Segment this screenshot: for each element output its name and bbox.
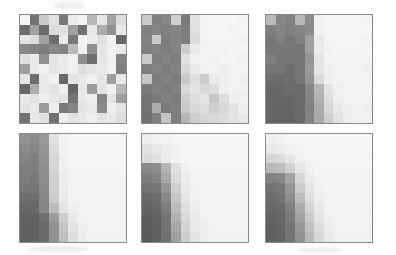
heatmap-cell (30, 84, 40, 94)
heatmap-panel-1[interactable] (19, 14, 127, 124)
heatmap-cell (285, 154, 295, 164)
heatmap-cell (343, 84, 353, 94)
heatmap-cell (324, 134, 334, 144)
heatmap-cell (324, 213, 334, 223)
heatmap-cell (68, 173, 78, 183)
heatmap-cell (171, 25, 181, 35)
heatmap-cell (68, 94, 78, 104)
heatmap-cell (39, 103, 49, 113)
heatmap-cell (276, 44, 286, 54)
heatmap-cell (107, 203, 117, 213)
heatmap-cell (362, 35, 372, 45)
heatmap-cell (209, 84, 219, 94)
heatmap-cell (39, 193, 49, 203)
heatmap-cell (30, 54, 40, 64)
heatmap-cell (324, 154, 334, 164)
heatmap-cell (116, 222, 126, 232)
heatmap-cell (353, 163, 363, 173)
heatmap-cell (200, 183, 210, 193)
heatmap-cell (68, 74, 78, 84)
heatmap-panel-2[interactable] (141, 14, 249, 124)
heatmap-cell (362, 163, 372, 173)
heatmap-cell (324, 25, 334, 35)
heatmap-cell (343, 25, 353, 35)
heatmap-cell (161, 103, 171, 113)
heatmap-cell (295, 232, 305, 242)
figure-root (0, 0, 396, 255)
heatmap-cell (181, 103, 191, 113)
heatmap-cell (266, 183, 276, 193)
heatmap-cell (238, 203, 248, 213)
heatmap-cell (353, 222, 363, 232)
heatmap-cell (343, 144, 353, 154)
heatmap-cell (30, 25, 40, 35)
heatmap-panel-3[interactable] (265, 14, 373, 124)
heatmap-cell (171, 113, 181, 123)
heatmap-cell (152, 163, 162, 173)
heatmap-cell (152, 144, 162, 154)
heatmap-cell (181, 144, 191, 154)
heatmap-cell (314, 222, 324, 232)
heatmap-panel-6[interactable] (265, 133, 373, 243)
heatmap-cell (362, 64, 372, 74)
heatmap-cell (219, 84, 229, 94)
heatmap-cell (324, 94, 334, 104)
heatmap-cell (97, 144, 107, 154)
heatmap-cell (353, 183, 363, 193)
heatmap-cell (295, 113, 305, 123)
heatmap-cell (171, 94, 181, 104)
heatmap-panel-5[interactable] (141, 133, 249, 243)
heatmap-cell (49, 74, 59, 84)
heatmap-cell (97, 193, 107, 203)
heatmap-cell (314, 84, 324, 94)
heatmap-cell (266, 213, 276, 223)
heatmap-cell (142, 203, 152, 213)
heatmap-cell (20, 222, 30, 232)
heatmap-cell (49, 183, 59, 193)
scan-smudge (54, 2, 84, 9)
heatmap-cell (266, 25, 276, 35)
heatmap-cell (314, 54, 324, 64)
heatmap-cell (39, 94, 49, 104)
heatmap-cell (219, 54, 229, 64)
heatmap-cell (276, 35, 286, 45)
heatmap-cell (142, 64, 152, 74)
heatmap-cell (152, 15, 162, 25)
heatmap-cell (219, 144, 229, 154)
heatmap-cell (333, 94, 343, 104)
heatmap-cell (97, 163, 107, 173)
scan-smudge (300, 248, 340, 253)
heatmap-cell (209, 64, 219, 74)
heatmap-cell (39, 173, 49, 183)
heatmap-cell (276, 74, 286, 84)
heatmap-cell (229, 163, 239, 173)
heatmap-cell (295, 64, 305, 74)
heatmap-cell (152, 35, 162, 45)
heatmap-cell (30, 222, 40, 232)
heatmap-cell (295, 144, 305, 154)
heatmap-cell (87, 54, 97, 64)
heatmap-cell (161, 232, 171, 242)
heatmap-cell (276, 94, 286, 104)
heatmap-cell (229, 203, 239, 213)
heatmap-panel-4[interactable] (19, 133, 127, 243)
heatmap-cell (266, 15, 276, 25)
heatmap-cell (49, 193, 59, 203)
heatmap-cell (49, 35, 59, 45)
heatmap-cell (39, 64, 49, 74)
heatmap-cell (266, 113, 276, 123)
heatmap-cell (20, 103, 30, 113)
heatmap-cell (142, 74, 152, 84)
heatmap-cell (285, 15, 295, 25)
heatmap-cell (87, 84, 97, 94)
heatmap-cell (305, 134, 315, 144)
heatmap-cell (295, 94, 305, 104)
heatmap-cell (285, 54, 295, 64)
heatmap-cell (190, 84, 200, 94)
heatmap-cell (276, 232, 286, 242)
heatmap-cell (161, 134, 171, 144)
heatmap-cell (295, 193, 305, 203)
heatmap-cell (161, 25, 171, 35)
heatmap-cell (30, 103, 40, 113)
heatmap-cell (266, 173, 276, 183)
